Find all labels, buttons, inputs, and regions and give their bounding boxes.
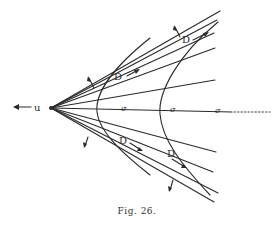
arrowhead-icon xyxy=(173,25,177,31)
sigma-label-2: σ xyxy=(170,105,176,114)
ray-upper-2 xyxy=(51,20,217,108)
d-label-upper-2: D xyxy=(182,34,190,45)
ray-axis xyxy=(51,108,232,112)
ray-upper-4 xyxy=(51,48,215,108)
d-label-upper-1: D xyxy=(114,71,122,82)
fig-26-diagram: u σ σ σ D D D D xyxy=(0,0,274,232)
d-label-lower-2: D xyxy=(167,148,175,159)
ray-lower-3 xyxy=(51,108,218,193)
figure-caption: Fig. 26. xyxy=(0,206,274,216)
vertex-point xyxy=(49,106,53,110)
d-label-lower-1: D xyxy=(119,135,127,146)
ray-lower-4 xyxy=(51,108,214,202)
velocity-arrowhead-icon xyxy=(13,104,19,110)
velocity-label: u xyxy=(34,102,41,113)
arrowhead-icon xyxy=(87,76,91,82)
sigma-label-1: σ xyxy=(121,104,127,113)
sigma-label-3: σ xyxy=(215,106,221,115)
ray-lower-2 xyxy=(51,108,213,172)
wavefront-outer xyxy=(160,22,218,195)
